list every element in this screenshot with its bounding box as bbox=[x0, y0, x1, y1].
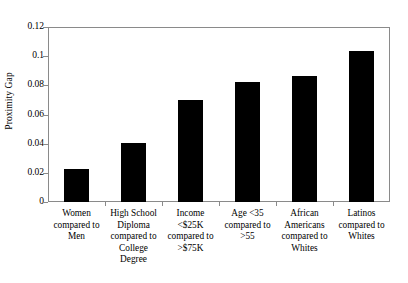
y-axis-title-text: Proximity Gap bbox=[4, 72, 14, 130]
x-axis-tick-label: High School Diploma compared to College … bbox=[105, 208, 162, 266]
bar bbox=[121, 143, 147, 202]
y-axis-tick-labels: 00.020.040.060.080.10.12 bbox=[14, 0, 44, 283]
y-axis-tick-mark bbox=[43, 27, 48, 28]
y-axis-tick-label: 0.02 bbox=[14, 168, 44, 178]
x-axis-tick-labels: Women compared to MenHigh School Diploma… bbox=[48, 208, 390, 283]
y-axis-tick-mark bbox=[43, 115, 48, 116]
x-axis-tick-mark bbox=[219, 202, 220, 206]
x-axis-tick-label: Age <35 compared to >55 bbox=[219, 208, 276, 243]
y-axis-tick-label: 0.08 bbox=[14, 81, 44, 91]
y-axis-tick-label: 0.06 bbox=[14, 110, 44, 120]
y-axis-tick-label: 0.1 bbox=[14, 51, 44, 61]
bar bbox=[235, 82, 261, 202]
x-axis-tick-mark bbox=[105, 202, 106, 206]
bar bbox=[292, 76, 318, 202]
x-axis-tick-label: Women compared to Men bbox=[48, 208, 105, 243]
x-axis-tick-label: Latinos compared to Whites bbox=[333, 208, 390, 243]
y-axis-tick-mark bbox=[43, 85, 48, 86]
bar bbox=[64, 169, 90, 202]
y-axis-tick-label: 0.12 bbox=[14, 22, 44, 32]
x-axis-tick-label: African Americans compared to Whites bbox=[276, 208, 333, 254]
y-axis-tick-label: 0 bbox=[14, 197, 44, 207]
y-axis-tick-label: 0.04 bbox=[14, 139, 44, 149]
y-axis-tick-mark bbox=[43, 144, 48, 145]
bar bbox=[349, 51, 375, 202]
bars-layer bbox=[48, 27, 390, 202]
y-axis-tick-mark bbox=[43, 202, 48, 203]
x-axis-tick-mark bbox=[276, 202, 277, 206]
y-axis-tick-mark bbox=[43, 56, 48, 57]
x-axis-tick-mark bbox=[333, 202, 334, 206]
y-axis-tick-mark bbox=[43, 173, 48, 174]
bar-chart: Proximity Gap 00.020.040.060.080.10.12 W… bbox=[0, 0, 408, 283]
x-axis-tick-label: Income <$25K compared to >$75K bbox=[162, 208, 219, 254]
bar bbox=[178, 100, 204, 202]
x-axis-tick-mark bbox=[162, 202, 163, 206]
